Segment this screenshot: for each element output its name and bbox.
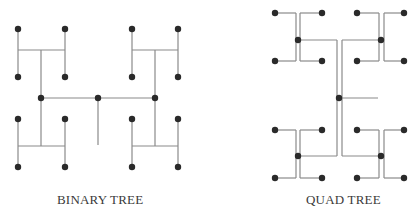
tree-node bbox=[15, 74, 21, 80]
tree-node bbox=[272, 10, 278, 16]
quad-tree-graph bbox=[272, 10, 407, 181]
tree-node bbox=[129, 26, 135, 32]
tree-node bbox=[62, 74, 68, 80]
tree-node bbox=[378, 153, 384, 159]
tree-node bbox=[319, 127, 325, 133]
tree-node bbox=[175, 74, 181, 80]
tree-node bbox=[15, 116, 21, 122]
quad-tree-label: QUAD TREE bbox=[306, 192, 381, 208]
tree-node bbox=[272, 127, 278, 133]
tree-node bbox=[175, 116, 181, 122]
tree-node bbox=[378, 37, 384, 43]
tree-node bbox=[401, 10, 407, 16]
tree-node bbox=[38, 95, 44, 101]
tree-node bbox=[401, 58, 407, 64]
binary-tree-label: BINARY TREE bbox=[57, 192, 143, 208]
tree-node bbox=[129, 116, 135, 122]
tree-node bbox=[62, 164, 68, 170]
tree-node bbox=[354, 58, 360, 64]
tree-node bbox=[95, 95, 101, 101]
tree-node bbox=[15, 164, 21, 170]
tree-node bbox=[272, 175, 278, 181]
tree-node bbox=[319, 58, 325, 64]
tree-node bbox=[319, 10, 325, 16]
tree-node bbox=[272, 58, 278, 64]
tree-node bbox=[295, 37, 301, 43]
tree-node bbox=[129, 164, 135, 170]
binary-tree-graph bbox=[15, 26, 181, 170]
tree-node bbox=[354, 175, 360, 181]
tree-node bbox=[401, 175, 407, 181]
tree-node bbox=[15, 26, 21, 32]
tree-node bbox=[62, 116, 68, 122]
tree-node bbox=[295, 153, 301, 159]
tree-node bbox=[336, 95, 342, 101]
tree-node bbox=[319, 175, 325, 181]
tree-node bbox=[62, 26, 68, 32]
tree-node bbox=[354, 10, 360, 16]
tree-node bbox=[354, 127, 360, 133]
tree-node bbox=[152, 95, 158, 101]
tree-node bbox=[129, 74, 135, 80]
tree-node bbox=[175, 164, 181, 170]
tree-node bbox=[401, 127, 407, 133]
tree-layouts-diagram bbox=[0, 0, 420, 218]
tree-node bbox=[175, 26, 181, 32]
